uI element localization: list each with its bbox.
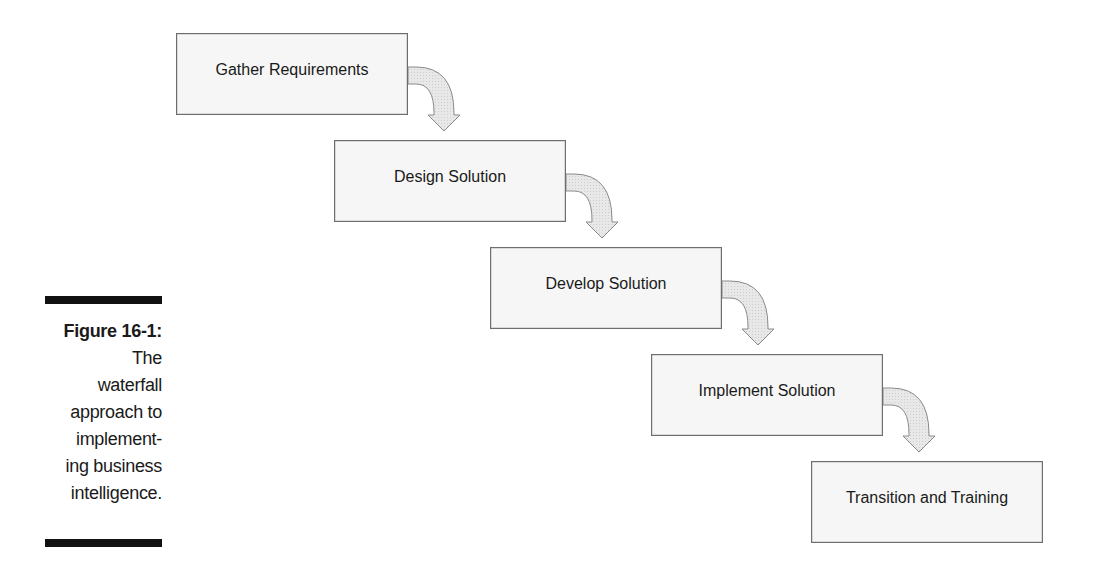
caption-line: The — [20, 345, 162, 372]
caption-top-rule — [45, 296, 162, 304]
stage-label: Transition and Training — [846, 489, 1008, 507]
stage-develop-solution: Develop Solution — [490, 247, 722, 329]
stage-label: Develop Solution — [546, 275, 667, 293]
stage-implement-solution: Implement Solution — [651, 354, 883, 436]
caption-line: intelligence. — [20, 480, 162, 507]
stage-label: Implement Solution — [699, 382, 836, 400]
figure-caption: Figure 16-1: The waterfall approach to i… — [20, 318, 162, 507]
stage-label: Gather Requirements — [216, 61, 369, 79]
arrow-3-icon — [722, 281, 774, 345]
caption-bottom-rule — [45, 539, 162, 547]
arrow-2-icon — [566, 174, 618, 238]
stage-label: Design Solution — [394, 168, 506, 186]
arrow-4-icon — [883, 388, 935, 452]
arrow-1-icon — [408, 67, 460, 131]
caption-line: waterfall — [20, 372, 162, 399]
caption-line: approach to — [20, 399, 162, 426]
figure-label: Figure 16-1: — [20, 318, 162, 345]
stage-gather-requirements: Gather Requirements — [176, 33, 408, 115]
stage-design-solution: Design Solution — [334, 140, 566, 222]
stage-transition-and-training: Transition and Training — [811, 461, 1043, 543]
caption-line: ing business — [20, 453, 162, 480]
caption-line: implement- — [20, 426, 162, 453]
